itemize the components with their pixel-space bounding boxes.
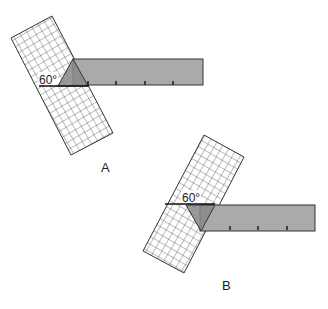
diagram-canvas: 60° A 60° B <box>0 0 328 309</box>
panel-b: 60° B <box>143 135 315 293</box>
bar-a <box>73 59 203 85</box>
panel-label-a: A <box>101 160 110 175</box>
angle-label-a: 60° <box>39 73 57 87</box>
panel-a: 60° A <box>11 16 203 175</box>
angle-label-b: 60° <box>182 191 200 205</box>
panel-label-b: B <box>222 278 231 293</box>
